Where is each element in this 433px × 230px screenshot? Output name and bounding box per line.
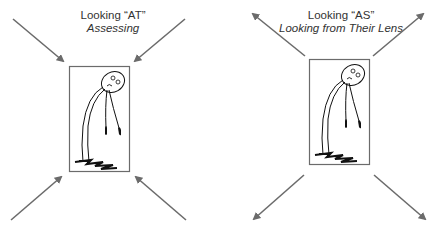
arrow-out-bottom-left: [254, 175, 304, 219]
arrow-in-bottom-left: [11, 177, 61, 220]
arrow-in-bottom-right: [136, 177, 186, 220]
arrow-out-bottom-right: [374, 175, 425, 219]
panel-at-diagram: [11, 19, 186, 220]
panel-as-diagram: [253, 14, 425, 219]
arrow-in-top-right: [135, 19, 185, 61]
arrow-in-top-left: [13, 19, 63, 61]
arrow-out-top-right: [373, 14, 423, 56]
arrow-out-top-left: [253, 14, 305, 56]
